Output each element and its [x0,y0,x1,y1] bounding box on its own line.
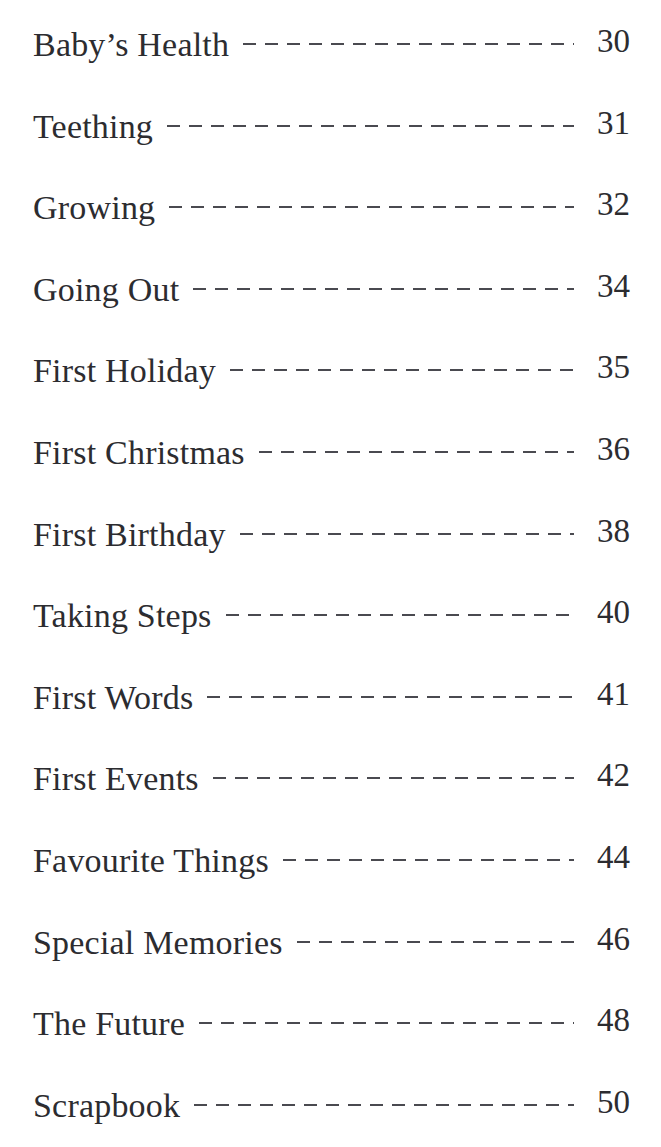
toc-entry-page-number: 30 [574,19,630,63]
table-of-contents-page: Baby’s Health30Teething31Growing32Going … [0,0,661,1147]
toc-entry-title: The Future [33,1002,199,1046]
toc-entry-page-number: 44 [574,835,630,879]
toc-entry-page-number: 34 [574,264,630,308]
toc-entry[interactable]: Scrapbook50 [33,1073,630,1117]
toc-entry-page-number: 36 [574,427,630,471]
toc-entry-page-number: 46 [574,917,630,961]
toc-entry-page-number: 38 [574,509,630,553]
toc-entry[interactable]: Taking Steps40 [33,583,630,627]
toc-entry-dash-leader [283,828,574,872]
toc-entry-dash-leader [207,665,574,709]
toc-entry-dash-leader [243,12,574,56]
toc-entry[interactable]: First Events42 [33,746,630,790]
toc-entry-page-number: 40 [574,590,630,634]
toc-entry-title: First Events [33,757,213,801]
toc-entry[interactable]: The Future48 [33,991,630,1035]
toc-entry-page-number: 41 [574,672,630,716]
toc-entry-dash-leader [230,338,574,382]
toc-entry-title: Scrapbook [33,1084,194,1128]
toc-entry-page-number: 32 [574,182,630,226]
toc-entry[interactable]: First Words41 [33,665,630,709]
toc-entry-title: Favourite Things [33,839,283,883]
toc-entry[interactable]: First Christmas36 [33,420,630,464]
toc-entry-title: First Holiday [33,349,230,393]
toc-entry-title: First Christmas [33,431,259,475]
toc-entry-dash-leader [167,94,574,138]
toc-entry-dash-leader [259,420,574,464]
toc-entry-dash-leader [199,991,574,1035]
toc-entry-title: Special Memories [33,921,297,965]
toc-entry[interactable]: Growing32 [33,175,630,219]
toc-entry-dash-leader [240,502,574,546]
toc-entry[interactable]: First Birthday38 [33,502,630,546]
toc-entry-title: Teething [33,105,167,149]
table-of-contents-list: Baby’s Health30Teething31Growing32Going … [33,0,630,1147]
toc-entry-dash-leader [213,746,574,790]
toc-entry-page-number: 35 [574,345,630,389]
toc-entry[interactable]: Special Memories46 [33,910,630,954]
toc-entry-title: Going Out [33,268,193,312]
toc-entry-dash-leader [297,910,574,954]
toc-entry-title: Growing [33,186,169,230]
toc-entry[interactable]: Going Out34 [33,257,630,301]
toc-entry-page-number: 48 [574,998,630,1042]
toc-entry[interactable]: First Holiday35 [33,338,630,382]
toc-entry-dash-leader [194,1073,574,1117]
toc-entry-page-number: 50 [574,1080,630,1124]
toc-entry[interactable]: Favourite Things44 [33,828,630,872]
toc-entry-dash-leader [193,257,574,301]
toc-entry-page-number: 42 [574,753,630,797]
toc-entry-title: First Birthday [33,513,240,557]
toc-entry-page-number: 31 [574,101,630,145]
toc-entry-dash-leader [226,583,574,627]
toc-entry-dash-leader [169,175,574,219]
toc-entry[interactable]: Baby’s Health30 [33,12,630,56]
toc-entry-title: Baby’s Health [33,23,243,67]
toc-entry-title: First Words [33,676,207,720]
toc-entry[interactable]: Teething31 [33,94,630,138]
toc-entry-title: Taking Steps [33,594,226,638]
